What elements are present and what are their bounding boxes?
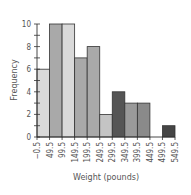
x-tick-label: 349.5 bbox=[121, 142, 130, 163]
x-tick-label: 299.5 bbox=[108, 142, 117, 163]
histogram-bar bbox=[87, 47, 100, 137]
x-tick-label: 49.5 bbox=[46, 142, 55, 158]
y-tick-label: 10 bbox=[22, 20, 32, 29]
x-tick-label: 399.5 bbox=[133, 142, 142, 163]
histogram-bar bbox=[137, 103, 150, 137]
y-tick-label: 8 bbox=[26, 43, 31, 52]
histogram-bar bbox=[112, 92, 125, 137]
y-tick-label: 6 bbox=[26, 65, 31, 74]
histogram-bar bbox=[50, 24, 63, 137]
x-tick-label: 549.5 bbox=[171, 142, 180, 163]
x-axis-title: Weight (pounds) bbox=[73, 173, 139, 182]
x-tick-label: 99.5 bbox=[58, 142, 67, 158]
bars-group bbox=[37, 24, 175, 137]
histogram-bar bbox=[62, 24, 75, 137]
y-axis: 0246810 bbox=[22, 20, 40, 142]
histogram-bar bbox=[100, 114, 113, 137]
x-tick-label: 449.5 bbox=[146, 142, 155, 163]
x-tick-label: 499.5 bbox=[158, 142, 167, 163]
histogram-bar bbox=[125, 103, 138, 137]
y-tick-label: 2 bbox=[26, 110, 31, 119]
x-tick-label: 199.5 bbox=[83, 142, 92, 163]
x-tick-label: 149.5 bbox=[71, 142, 80, 163]
y-tick-label: 0 bbox=[26, 133, 31, 142]
histogram-bar bbox=[75, 58, 88, 137]
y-tick-label: 4 bbox=[26, 88, 31, 97]
histogram-chart: 0246810 −0.549.599.5149.5199.5249.5299.5… bbox=[0, 0, 191, 195]
y-axis-title: Frequency bbox=[10, 59, 19, 101]
x-tick-label: 249.5 bbox=[96, 142, 105, 163]
x-axis: −0.549.599.5149.5199.5249.5299.5349.5399… bbox=[33, 137, 180, 163]
histogram-bar bbox=[162, 126, 175, 137]
x-tick-label: −0.5 bbox=[33, 142, 42, 159]
